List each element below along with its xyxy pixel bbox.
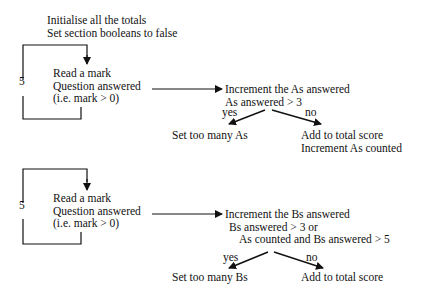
yes-a-action: Set too many As — [172, 129, 248, 142]
read-mark-b-step: Read a mark Question answered (i.e. mark… — [53, 192, 141, 230]
read-mark-a-step: Read a mark Question answered (i.e. mark… — [53, 67, 141, 105]
no-b-label: no — [306, 251, 318, 264]
no-a-action: Add to total score Increment As counted — [301, 129, 402, 154]
no-a-label: no — [305, 106, 317, 119]
yes-b-action: Set too many Bs — [172, 271, 248, 284]
init-step: Initialise all the totals Set section bo… — [47, 14, 177, 39]
loop-a-count: 5 — [19, 75, 25, 88]
yes-a-label: yes — [222, 106, 237, 119]
loop-b-count: 5 — [19, 199, 25, 212]
no-b-action: Add to total score — [301, 271, 383, 284]
decision-a: Increment the As answered As answered > … — [225, 83, 350, 108]
decision-b: Increment the Bs answered Bs answered > … — [225, 208, 390, 246]
flowchart-canvas: Initialise all the totals Set section bo… — [0, 0, 428, 297]
yes-b-label: yes — [223, 251, 238, 264]
